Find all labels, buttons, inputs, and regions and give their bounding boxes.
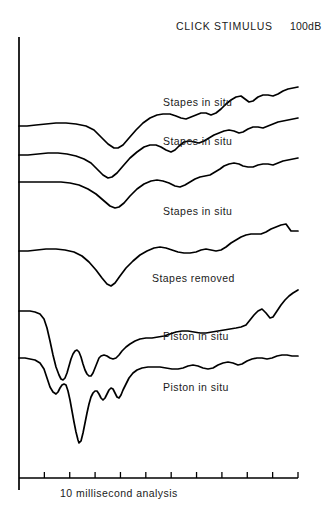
x-axis-caption: 10 millisecond analysis <box>60 487 178 499</box>
waveform-trace-1 <box>19 87 298 148</box>
trace-group <box>19 87 298 443</box>
trace-label-3: Stapes in situ <box>163 205 232 217</box>
trace-label-1: Stapes in situ <box>163 96 232 108</box>
waveform-trace-6 <box>19 355 298 443</box>
waveform-trace-2 <box>19 118 298 178</box>
trace-label-5: Piston in situ <box>163 330 229 342</box>
axes-group <box>19 37 298 490</box>
trace-label-6: Piston in situ <box>163 381 229 393</box>
waveform-trace-3 <box>19 158 298 208</box>
trace-label-2: Stapes in situ <box>163 135 232 147</box>
trace-label-4: Stapes removed <box>152 272 235 284</box>
click-stimulus-figure: CLICK STIMULUS 100dB Stapes in situStape… <box>0 0 333 518</box>
waveform-plot <box>0 0 333 518</box>
